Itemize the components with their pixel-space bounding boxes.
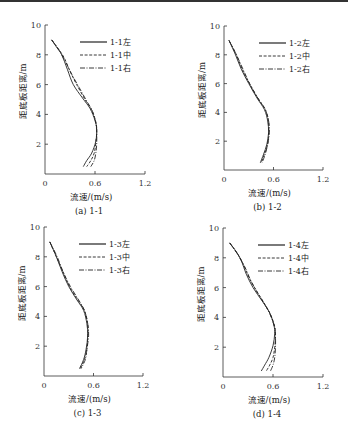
y-tick-label: 10 [30, 223, 40, 232]
legend-label: 1-3中 [109, 252, 130, 262]
series-line [229, 40, 269, 162]
series-line [50, 242, 88, 369]
legend-label: 1-1中 [110, 50, 131, 60]
y-tick-label: 8 [214, 254, 219, 263]
axes [223, 228, 323, 377]
legend-label: 1-1右 [110, 63, 131, 73]
x-axis-title: 流速/(m/s) [248, 188, 291, 198]
legend-label: 1-1左 [110, 37, 131, 47]
y-tick-label: 2 [214, 343, 219, 352]
y-tick-label: 4 [215, 108, 220, 117]
y-tick-label: 6 [215, 80, 220, 89]
chart-svg: 24681000.61.2距底板距离/m流速/(m/s)(d) 1-41-4左1… [174, 215, 348, 430]
chart-svg: 24681000.61.2距底板距离/m流速/(m/s)(a) 1-11-1左1… [0, 0, 174, 215]
chart-panel-d: 24681000.61.2距底板距离/m流速/(m/s)(d) 1-41-4左1… [174, 215, 348, 430]
series-line [52, 40, 97, 167]
x-tick-label: 0 [41, 381, 46, 390]
legend-label: 1-4左 [288, 240, 309, 250]
axes [44, 227, 143, 376]
chart-svg: 24681000.61.2距底板距离/m流速/(m/s)(b) 1-21-2左1… [174, 0, 348, 215]
panel-caption: (a) 1-1 [75, 206, 103, 215]
y-tick-label: 2 [215, 137, 220, 146]
y-tick-label: 4 [35, 312, 40, 321]
x-tick-label: 0 [221, 175, 226, 184]
series-line [50, 242, 88, 369]
y-tick-label: 10 [209, 224, 219, 233]
x-tick-label: 0 [42, 179, 47, 188]
x-tick-label: 0 [220, 382, 225, 391]
y-tick-label: 4 [214, 313, 219, 322]
y-tick-label: 2 [36, 140, 41, 149]
y-tick-label: 8 [215, 51, 220, 60]
legend-label: 1-3右 [109, 265, 130, 275]
legend-label: 1-4右 [288, 266, 309, 276]
legend-label: 1-2右 [289, 64, 310, 74]
panel-caption: (b) 1-2 [253, 202, 281, 212]
chart-panel-b: 24681000.61.2距底板距离/m流速/(m/s)(b) 1-21-2左1… [174, 0, 348, 215]
series-line [229, 40, 269, 162]
x-axis-title: 流速/(m/s) [70, 192, 113, 202]
x-tick-label: 0.6 [89, 179, 102, 188]
legend-label: 1-3左 [109, 239, 130, 249]
panel-caption: (c) 1-3 [74, 408, 102, 418]
series-line [229, 40, 269, 162]
y-axis-title: 距底板距离/m [197, 62, 207, 118]
y-axis-title: 距底板距离/m [196, 267, 206, 323]
y-axis-title: 距底板距离/m [17, 266, 27, 322]
series-line [50, 242, 89, 369]
x-axis-title: 流速/(m/s) [248, 395, 291, 405]
x-tick-label: 0.6 [267, 382, 280, 391]
y-tick-label: 6 [36, 81, 41, 90]
x-tick-label: 1.2 [317, 382, 330, 391]
y-tick-label: 4 [36, 110, 41, 119]
y-tick-label: 8 [36, 51, 41, 60]
chart-svg: 24681000.61.2距底板距离/m流速/(m/s)(c) 1-31-3左1… [0, 215, 174, 430]
series-line [52, 40, 97, 167]
y-tick-label: 10 [31, 21, 41, 30]
x-axis-title: 流速/(m/s) [68, 394, 111, 404]
series-line [52, 40, 97, 167]
x-tick-label: 1.2 [317, 175, 330, 184]
legend-label: 1-2中 [289, 51, 310, 61]
x-tick-label: 1.2 [139, 179, 152, 188]
y-tick-label: 6 [35, 283, 40, 292]
legend-label: 1-2左 [289, 38, 310, 48]
chart-panel-c: 24681000.61.2距底板距离/m流速/(m/s)(c) 1-31-3左1… [0, 215, 174, 430]
panel-caption: (d) 1-4 [253, 409, 281, 419]
legend: 1-3左1-3中1-3右 [79, 239, 130, 275]
y-tick-label: 10 [210, 22, 220, 31]
y-tick-label: 2 [35, 342, 40, 351]
legend: 1-2左1-2中1-2右 [259, 38, 310, 74]
x-tick-label: 0.6 [87, 381, 100, 390]
series-line [230, 243, 276, 371]
y-tick-label: 6 [214, 284, 219, 293]
legend: 1-1左1-1中1-1右 [80, 37, 131, 73]
y-tick-label: 8 [35, 253, 40, 262]
legend-label: 1-4中 [288, 253, 309, 263]
x-tick-label: 0.6 [267, 175, 280, 184]
axes [45, 25, 145, 174]
chart-panel-a: 24681000.61.2距底板距离/m流速/(m/s)(a) 1-11-1左1… [0, 0, 174, 215]
legend: 1-4左1-4中1-4右 [258, 240, 309, 276]
x-tick-label: 1.2 [137, 381, 150, 390]
y-axis-title: 距底板距离/m [18, 64, 28, 120]
series-line [230, 243, 275, 371]
series-line [230, 243, 276, 371]
